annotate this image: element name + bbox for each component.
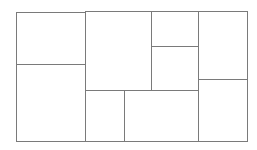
rectangle-cell-b bbox=[16, 64, 86, 142]
rectangle-cell-d bbox=[151, 11, 199, 47]
rectangle-cell-f bbox=[198, 11, 248, 80]
rectangle-cell-g bbox=[85, 90, 125, 142]
rectangle-tiling-diagram bbox=[0, 0, 257, 150]
rectangle-cell-a bbox=[16, 12, 86, 65]
rectangle-cell-h bbox=[124, 90, 199, 142]
rectangle-cell-c bbox=[85, 11, 152, 91]
rectangle-cell-e bbox=[151, 46, 199, 91]
rectangle-cell-i bbox=[198, 79, 248, 142]
